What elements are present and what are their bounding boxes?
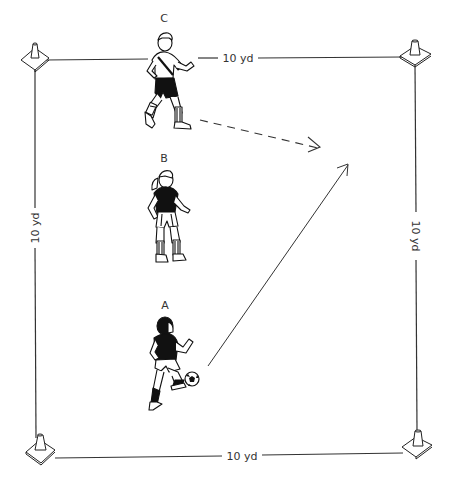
soccer-ball-icon xyxy=(185,372,199,386)
cone-icon xyxy=(26,434,55,465)
cone-icon xyxy=(402,430,432,459)
player-b-figure xyxy=(148,171,190,262)
cone-icon xyxy=(400,40,431,67)
run-path-arrow xyxy=(200,120,320,152)
top-distance-label: 10 yd xyxy=(223,52,254,65)
pass-arrow xyxy=(208,164,348,366)
cone-icon xyxy=(21,43,49,72)
player-a-figure xyxy=(149,317,193,410)
player-label-a: A xyxy=(161,299,169,312)
bottom-distance-label: 10 yd xyxy=(227,450,258,463)
left-distance-label: 10 yd xyxy=(29,213,42,244)
right-distance-label: 10 yd xyxy=(409,221,422,252)
drill-diagram: 10 yd 10 yd 10 yd 10 yd C B A xyxy=(0,0,459,487)
player-label-b: B xyxy=(160,152,168,165)
field-boundary xyxy=(35,57,417,458)
player-c-figure xyxy=(145,33,194,129)
player-label-c: C xyxy=(160,12,168,25)
